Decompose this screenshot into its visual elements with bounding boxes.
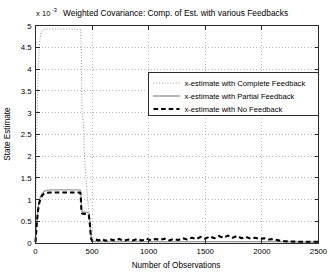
series-line-dotted: [36, 29, 319, 242]
y-tick-label: 2: [27, 152, 31, 161]
series-layer: [36, 29, 319, 242]
y-tick-labels: 00.511.522.533.544.55: [21, 22, 33, 249]
legend[interactable]: x-estimate with Complete Feedbackx-estim…: [149, 73, 319, 116]
x-axis-title: Number of Observations: [132, 261, 221, 270]
y-tick-label: 4.5: [21, 43, 33, 52]
figure-container: x 10 -3 Weighted Covariance: Comp. of Es…: [0, 0, 330, 279]
x-tick-label: 0: [33, 247, 38, 256]
legend-label: x-estimate with Complete Feedback: [185, 79, 306, 88]
chart-canvas: x 10 -3 Weighted Covariance: Comp. of Es…: [0, 0, 330, 279]
y-tick-label: 0.5: [21, 217, 33, 226]
x-tick-label: 1000: [140, 247, 158, 256]
y-tick-label: 5: [27, 22, 32, 31]
y-tick-label: 3: [27, 109, 31, 118]
y-tick-label: 4: [27, 65, 32, 74]
legend-label: x-estimate with No Feedback: [185, 105, 283, 114]
y-axis-exponent-power: -3: [52, 7, 57, 13]
y-tick-label: 2.5: [21, 130, 33, 139]
x-tick-label: 2500: [310, 247, 328, 256]
y-axis-title: State Estimate: [3, 107, 12, 161]
x-tick-labels: 05001000150020002500: [33, 247, 328, 256]
y-tick-label: 1.5: [21, 174, 33, 183]
series-line-dashed: [36, 193, 319, 243]
y-axis-exponent-prefix: x 10: [36, 9, 50, 18]
y-tick-label: 0: [27, 239, 32, 248]
series-line-solid: [36, 190, 319, 242]
x-tick-label: 1500: [197, 247, 215, 256]
grid-layer: [36, 26, 319, 244]
legend-label: x-estimate with Partial Feedback: [185, 92, 295, 101]
chart-title: Weighted Covariance: Comp. of Est. with …: [63, 8, 288, 18]
y-tick-label: 1: [27, 196, 31, 205]
chart-title-group: x 10 -3 Weighted Covariance: Comp. of Es…: [36, 7, 288, 18]
x-tick-label: 500: [86, 247, 100, 256]
y-tick-label: 3.5: [21, 87, 33, 96]
x-tick-label: 2000: [253, 247, 271, 256]
